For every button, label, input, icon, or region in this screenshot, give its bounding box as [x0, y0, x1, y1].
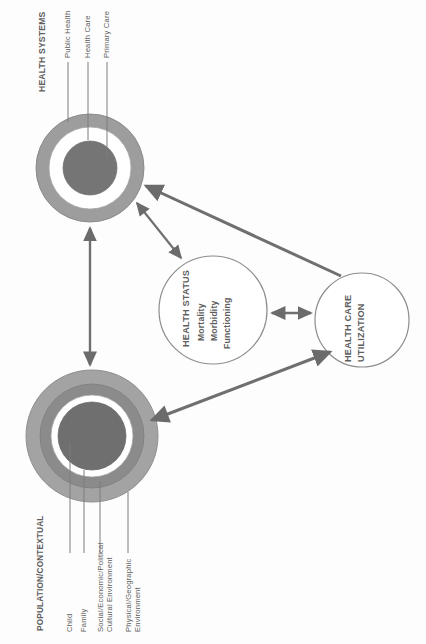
population-contextual-heading: POPULATION/CONTEXTUAL	[36, 516, 46, 632]
population-core	[58, 402, 126, 470]
node-health-systems	[36, 114, 144, 222]
health-care-utilization-heading-line1: HEALTH CARE	[343, 295, 354, 362]
health-systems-core	[63, 141, 117, 195]
label-public-health: Public Health	[64, 11, 73, 58]
label-child: Child	[66, 614, 75, 632]
health-status-heading: HEALTH STATUS	[181, 270, 192, 347]
node-population-contextual	[26, 370, 158, 502]
health-systems-heading: HEALTH SYSTEMS	[37, 12, 47, 92]
connector-population-utilization	[152, 352, 330, 420]
label-social-economic-political-cultural-environment: Social/Economic/Political Cultural Envir…	[97, 543, 115, 632]
health-status-item-mortality: Mortality	[196, 303, 206, 341]
diagram-canvas: HEALTH SYSTEMS Public Health Health Care…	[0, 0, 426, 644]
health-care-utilization-heading-line2: UTILIZATION	[356, 303, 367, 362]
label-primary-care: Primary Care	[103, 11, 112, 58]
label-family: Family	[80, 608, 89, 632]
label-health-care: Health Care	[84, 15, 93, 58]
connector-health-systems-health-status	[137, 203, 181, 258]
label-physical-geographic-environment: Physical/Geographic Environment	[125, 559, 143, 632]
connector-utilization-to-health-systems	[146, 186, 341, 276]
health-status-item-functioning: Functioning	[222, 298, 232, 349]
health-status-item-morbidity: Morbidity	[209, 301, 219, 341]
